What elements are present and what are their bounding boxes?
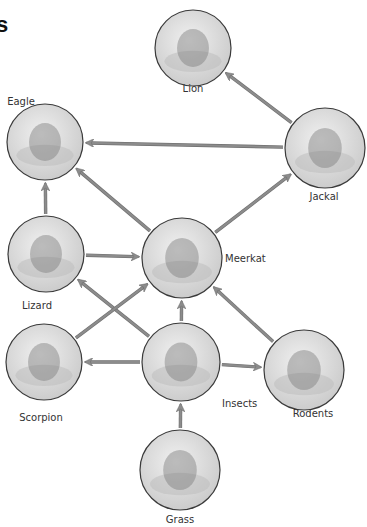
label-rodents: Rodents xyxy=(293,408,334,419)
label-jackal: Jackal xyxy=(309,191,338,202)
node-eagle xyxy=(7,104,83,180)
label-grass: Grass xyxy=(166,514,194,525)
node-grass xyxy=(140,430,220,510)
arrow-lizard-to-meerkat xyxy=(86,255,139,257)
arrow-meerkat-to-jackal xyxy=(215,174,291,232)
label-scorpion: Scorpion xyxy=(19,412,63,423)
node-rodents xyxy=(264,330,344,410)
node-lizard xyxy=(8,216,84,292)
label-eagle: Eagle xyxy=(7,96,35,107)
node-scorpion xyxy=(6,324,82,400)
label-meerkat: Meerkat xyxy=(225,253,266,264)
arrow-scorpion-to-meerkat xyxy=(76,284,148,338)
food-web-diagram xyxy=(0,0,367,527)
arrow-insects-to-rodents xyxy=(222,365,261,368)
arrow-jackal-to-lion xyxy=(226,73,292,123)
node-lion xyxy=(155,10,231,86)
node-insects xyxy=(142,323,220,401)
arrow-rodents-to-meerkat xyxy=(214,287,273,342)
label-insects: Insects xyxy=(222,398,257,409)
arrow-meerkat-to-eagle xyxy=(76,168,150,230)
label-lizard: Lizard xyxy=(22,300,52,311)
node-jackal xyxy=(285,108,365,188)
arrow-jackal-to-eagle xyxy=(86,143,283,147)
label-lion: Lion xyxy=(183,83,204,94)
node-meerkat xyxy=(142,218,222,298)
